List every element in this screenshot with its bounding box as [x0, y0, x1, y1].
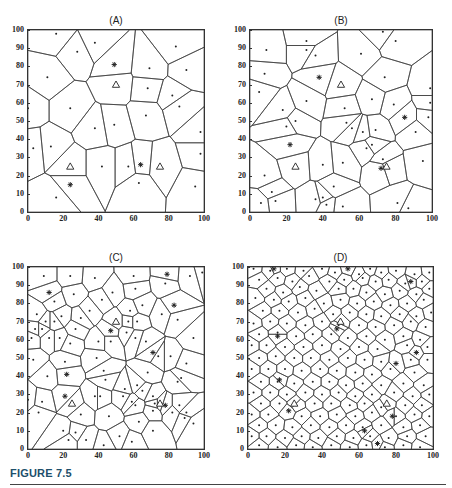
site-dot-marker: [338, 392, 340, 394]
voronoi-cell: [287, 438, 305, 449]
voronoi-cell: [389, 350, 405, 373]
site-dot-marker: [362, 382, 364, 384]
y-tick-mark: [247, 376, 250, 377]
voronoi-cell: [392, 418, 412, 435]
site-dot-marker: [428, 415, 430, 417]
site-dot-marker: [295, 335, 297, 337]
site-dot-marker: [380, 384, 382, 386]
site-dot-marker: [253, 322, 255, 324]
site-dot-marker: [384, 446, 386, 448]
site-dot-marker: [349, 404, 351, 406]
site-dot-marker: [295, 444, 297, 446]
voronoi-cell: [248, 403, 260, 425]
site-dot-marker: [321, 321, 323, 323]
y-tick-label: 100: [226, 262, 244, 271]
site-dot-marker: [388, 279, 390, 281]
x-tick-label: 100: [421, 451, 445, 460]
site-dot-marker: [319, 368, 321, 370]
site-dot-marker: [404, 404, 406, 406]
triangle-marker-icon: [337, 318, 344, 324]
plot-area: [247, 266, 434, 450]
site-dot-marker: [404, 282, 406, 284]
site-dot-marker: [321, 393, 323, 395]
site-dot-marker: [415, 315, 417, 317]
asterisk-marker-icon: [362, 428, 367, 433]
site-dot-marker: [345, 424, 347, 426]
voronoi-cell: [422, 406, 433, 427]
voronoi-cell: [295, 267, 313, 279]
site-dot-marker: [428, 393, 430, 395]
site-dot-marker: [273, 299, 275, 301]
site-dot-marker: [303, 346, 305, 348]
voronoi-cell: [248, 359, 260, 382]
site-dot-marker: [275, 355, 277, 357]
site-dot-marker: [284, 437, 286, 439]
voronoi-cell: [270, 395, 287, 414]
site-dot-marker: [364, 359, 366, 361]
site-dot-marker: [266, 435, 268, 437]
voronoi-cell: [405, 267, 422, 280]
site-dot-marker: [343, 279, 345, 281]
voronoi-cell: [280, 267, 295, 277]
site-dot-marker: [340, 299, 342, 301]
site-dot-marker: [286, 393, 288, 395]
site-dot-marker: [315, 290, 317, 292]
site-dot-marker: [253, 392, 255, 394]
voronoi-cell: [382, 272, 398, 288]
panel-d: (D) 0102030405060708090100020406080100: [0, 0, 452, 488]
site-dot-marker: [286, 322, 288, 324]
site-dot-marker: [362, 426, 364, 428]
y-tick-mark: [247, 285, 250, 286]
voronoi-edges: [248, 267, 433, 449]
site-dot-marker: [375, 326, 377, 328]
voronoi-cell: [419, 354, 433, 374]
site-dot-marker: [275, 424, 277, 426]
site-dot-marker: [304, 324, 306, 326]
voronoi-diagram: [248, 267, 433, 449]
site-dot-marker: [314, 308, 316, 310]
site-dot-marker: [399, 313, 401, 315]
site-dot-marker: [266, 288, 268, 290]
site-dot-marker: [284, 346, 286, 348]
site-dot-marker: [288, 301, 290, 303]
asterisk-marker-icon: [286, 408, 291, 413]
site-dot-marker: [260, 403, 262, 405]
site-dot-marker: [358, 273, 360, 275]
voronoi-cell: [248, 373, 269, 391]
site-dot-marker: [421, 404, 423, 406]
y-tick-mark: [247, 358, 250, 359]
site-dot-marker: [267, 413, 269, 415]
y-tick-label: 60: [226, 335, 244, 344]
site-dot-marker: [362, 277, 364, 279]
voronoi-cell: [421, 386, 433, 405]
site-dot-marker: [258, 444, 260, 446]
site-dot-marker: [371, 373, 373, 375]
y-tick-mark: [247, 340, 250, 341]
site-dot-marker: [304, 297, 306, 299]
site-dot-marker: [277, 277, 279, 279]
x-tick-label: 60: [347, 451, 371, 460]
voronoi-cell: [403, 386, 421, 404]
site-dot-marker: [369, 435, 371, 437]
site-dot-marker: [277, 332, 279, 334]
site-dot-marker: [425, 326, 427, 328]
site-dot-marker: [258, 279, 260, 281]
voronoi-cell: [248, 287, 265, 310]
site-dot-marker: [406, 344, 408, 346]
asterisk-marker-icon: [390, 414, 395, 419]
voronoi-cell: [260, 405, 279, 423]
voronoi-cell: [259, 428, 276, 446]
site-dot-marker: [328, 381, 330, 383]
site-dot-marker: [423, 299, 425, 301]
site-dot-marker: [393, 324, 395, 326]
site-dot-marker: [251, 368, 253, 370]
figure-divider: [10, 484, 446, 485]
site-dot-marker: [328, 281, 330, 283]
site-dot-marker: [395, 415, 397, 417]
site-dot-marker: [330, 403, 332, 405]
site-dot-marker: [373, 301, 375, 303]
site-dot-marker: [425, 435, 427, 437]
y-tick-label: 20: [226, 408, 244, 417]
y-tick-mark: [247, 322, 250, 323]
site-dot-marker: [328, 359, 330, 361]
